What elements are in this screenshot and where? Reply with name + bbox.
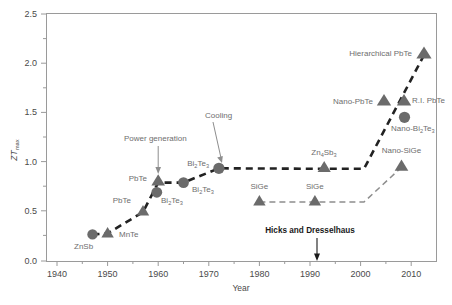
series-sige-line — [259, 167, 401, 202]
x-tick-1990: 1990 — [300, 269, 320, 279]
x-tick-1940: 1940 — [47, 269, 67, 279]
hicks-arrow-head — [314, 254, 320, 262]
x-tick-1960: 1960 — [148, 269, 168, 279]
marker-zn4sb3 — [318, 161, 331, 172]
y-axis-title-main: ZT — [9, 149, 19, 161]
marker-hierarchical-pbte — [416, 47, 431, 59]
x-axis: 1940 1950 1960 1970 1980 1990 2000 2010 … — [47, 261, 421, 293]
y-tick-2-5: 2.5 — [24, 9, 37, 19]
y-axis: 2.5 2.0 1.5 1.0 0.5 0.0 — [24, 9, 46, 266]
y-tick-2-0: 2.0 — [24, 58, 37, 68]
label-ri-pbte: R.I. PbTe — [412, 96, 445, 105]
x-tick-2000: 2000 — [351, 269, 371, 279]
marker-bi2te3-1972 — [213, 163, 224, 174]
label-pbte-1957: PbTe — [113, 196, 132, 205]
label-bi2te3-1960: Bi2Te3 — [161, 196, 183, 206]
y-axis-title: ZTmax — [9, 139, 20, 161]
marker-sige-1991 — [309, 195, 321, 205]
label-bi2te3-1965: Bi2Te3 — [192, 185, 214, 195]
annotation-power-generation: Power generation — [124, 134, 187, 143]
power-generation-arrow-head — [155, 167, 161, 174]
svg-text:ZTmax: ZTmax — [9, 139, 20, 161]
x-tick-1970: 1970 — [199, 269, 219, 279]
x-axis-title: Year — [232, 283, 249, 293]
y-axis-title-sub: max — [14, 139, 20, 150]
marker-nano-sige — [395, 160, 409, 171]
annotation-hicks-dresselhaus: Hicks and Dresselhaus — [265, 226, 355, 235]
marker-nano-bi2te3 — [399, 112, 410, 123]
annotation-cooling: Cooling — [205, 111, 232, 120]
label-nano-bi2te3: Nano-Bi2Te3 — [391, 124, 435, 134]
marker-pbte-1957 — [137, 205, 149, 215]
label-nano-sige: Nano-SiGe — [382, 146, 422, 155]
label-hierarchical-pbte: Hierarchical PbTe — [349, 49, 412, 58]
marker-nano-pbte — [377, 94, 391, 106]
label-pbte-1960: PbTe — [129, 174, 148, 183]
thermoelectric-zt-figure: 2.5 2.0 1.5 1.0 0.5 0.0 ZTmax — [0, 0, 452, 305]
y-tick-1-0: 1.0 — [24, 157, 37, 167]
label-nano-pbte: Nano-PbTe — [333, 97, 374, 106]
label-bi2te3-1972: Bi2Te3 — [187, 159, 209, 169]
label-sige-1991: SiGe — [306, 182, 324, 191]
y-tick-0-5: 0.5 — [24, 206, 37, 216]
x-tick-2010: 2010 — [401, 269, 421, 279]
x-tick-1950: 1950 — [98, 269, 118, 279]
cooling-arrow-head — [217, 156, 223, 163]
label-mnte: MnTe — [119, 230, 139, 239]
data-markers — [87, 47, 431, 240]
marker-sige-1980 — [253, 195, 265, 205]
label-zn4sb3: Zn4Sb3 — [311, 148, 336, 158]
cooling-arrow-line — [213, 122, 221, 158]
label-sige-1980: SiGe — [251, 182, 269, 191]
marker-pbte-1960 — [151, 174, 165, 185]
y-tick-1-5: 1.5 — [24, 107, 37, 117]
marker-znsb — [87, 229, 97, 239]
x-tick-1980: 1980 — [249, 269, 269, 279]
y-tick-0-0: 0.0 — [24, 256, 37, 266]
chart-svg: 2.5 2.0 1.5 1.0 0.5 0.0 ZTmax — [0, 0, 452, 305]
marker-bi2te3-1965 — [178, 177, 189, 188]
marker-mnte — [101, 227, 113, 237]
label-znsb: ZnSb — [74, 242, 94, 251]
